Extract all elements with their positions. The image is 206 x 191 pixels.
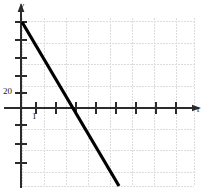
- grid-vertical: [22, 18, 194, 186]
- chart-canvas: [0, 0, 206, 191]
- y-axis: [18, 3, 25, 188]
- x-axis-tick-label-1: 1: [32, 112, 37, 121]
- grid-horizontal: [22, 21, 194, 186]
- y-axis-label: v: [20, 1, 24, 10]
- line-chart: v t 20 1: [0, 0, 206, 191]
- x-axis-label: t: [197, 105, 200, 114]
- y-axis-tick-label-20: 20: [3, 87, 12, 96]
